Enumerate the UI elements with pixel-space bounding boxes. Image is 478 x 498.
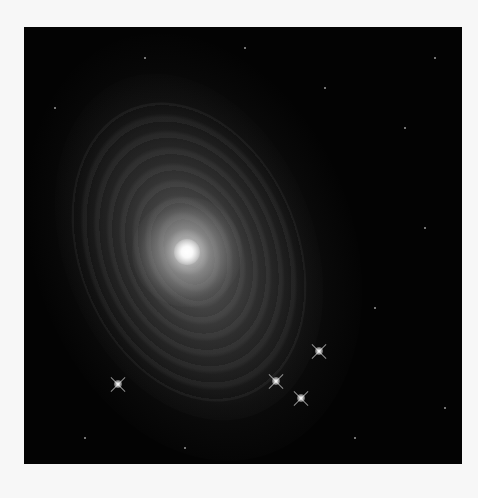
speck xyxy=(54,107,56,109)
speck xyxy=(444,407,446,409)
speck xyxy=(404,127,406,129)
star xyxy=(118,384,119,385)
speck xyxy=(84,437,86,439)
speck xyxy=(244,47,246,49)
star xyxy=(319,351,320,352)
speck xyxy=(434,57,436,59)
galaxy-core xyxy=(174,239,200,265)
galaxy-photo xyxy=(24,27,462,464)
speck xyxy=(424,227,426,229)
star xyxy=(301,398,302,399)
speck xyxy=(324,87,326,89)
speck xyxy=(354,437,356,439)
star xyxy=(276,381,277,382)
speck xyxy=(184,447,186,449)
speck xyxy=(144,57,146,59)
speck xyxy=(374,307,376,309)
